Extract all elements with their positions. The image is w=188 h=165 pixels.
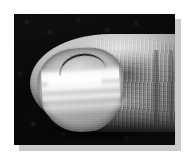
figure-caption: [0, 0, 1, 1]
nail-bright-band: [47, 71, 102, 90]
figure-container: Grayscale close-up photograph of a finge…: [0, 0, 188, 165]
knuckle-crease-lines: [148, 50, 175, 124]
clinical-photograph: [14, 14, 175, 145]
figure-alt-text: Grayscale close-up photograph of a finge…: [0, 0, 1, 1]
